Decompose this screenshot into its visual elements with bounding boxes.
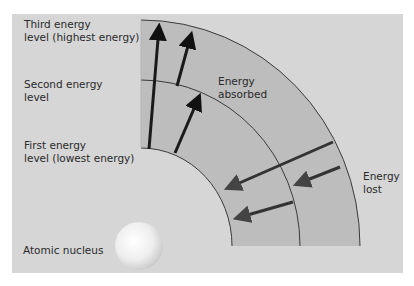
atomic-nucleus: [115, 222, 163, 270]
label-third-level: Third energy level (highest energy): [24, 18, 139, 44]
label-nucleus: Atomic nucleus: [23, 244, 103, 257]
label-energy-absorbed: Energy absorbed: [218, 75, 267, 101]
label-second-level: Second energy level: [24, 78, 103, 104]
label-first-level: First energy level (lowest energy): [24, 139, 134, 165]
label-energy-lost: Energy lost: [363, 170, 400, 196]
